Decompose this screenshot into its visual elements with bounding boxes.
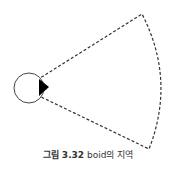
caption-text: boid의 지역 <box>87 150 133 160</box>
heading-triangle-icon <box>39 79 49 96</box>
figure-caption: 그림 3.32 boid의 지역 <box>0 148 176 161</box>
caption-label: 그림 3.32 <box>43 150 84 160</box>
field-of-view-sector <box>37 14 161 149</box>
